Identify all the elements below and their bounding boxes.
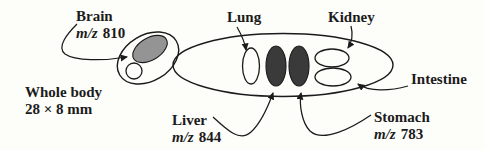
intestine-label: Intestine [411,71,467,87]
stomach-label: Stomach [374,109,430,125]
whole-body-section-diagram: Brain m/z810 Lung Kidney Intestine Whole… [0,0,484,150]
lung-ellipse [243,48,260,84]
brain-mz-value: 810 [103,25,126,41]
liver-mz-prefix: m/z [172,129,194,145]
liver-ellipse [266,46,286,86]
brain-mz-prefix: m/z [76,25,98,41]
whole-body-size-label: 28 × 8 mm [25,101,93,117]
liver-arrow [213,93,273,136]
intestine-ellipse [315,68,351,86]
brain-mz-label: m/z810 [76,25,125,41]
head-small-circle [126,63,142,79]
liver-mz-value: 844 [199,129,222,145]
liver-label: Liver [172,112,207,128]
kidney-label: Kidney [328,9,375,25]
liver-mz-label: m/z844 [172,129,222,145]
intestine-arrow [358,84,408,90]
lung-arrow [237,27,246,50]
stomach-mz-label: m/z783 [374,126,423,142]
stomach-ellipse [289,46,309,86]
stomach-mz-prefix: m/z [374,126,396,142]
lung-label: Lung [227,9,262,25]
stomach-mz-value: 783 [401,126,424,142]
kidney-ellipse [315,49,349,67]
stomach-arrow [300,93,371,135]
brain-label: Brain [76,8,113,24]
whole-body-label: Whole body [25,84,103,100]
kidney-arrow [348,26,352,48]
